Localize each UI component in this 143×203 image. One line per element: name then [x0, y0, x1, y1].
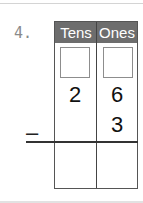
question-number: 4. [14, 24, 32, 42]
header-tens: Tens [55, 22, 97, 43]
bottom-separator [0, 201, 143, 203]
regroup-box-ones[interactable] [103, 47, 133, 78]
header-ones: Ones [97, 22, 137, 43]
subtraction-rule [26, 141, 138, 143]
minuend-tens-digit: 2 [55, 82, 95, 108]
top-separator [0, 3, 143, 4]
place-value-table: Tens Ones 2 6 3 [54, 21, 138, 189]
subtrahend-ones-digit: 3 [97, 112, 137, 138]
regroup-box-tens[interactable] [60, 47, 90, 78]
minuend-ones-digit: 6 [97, 82, 137, 108]
